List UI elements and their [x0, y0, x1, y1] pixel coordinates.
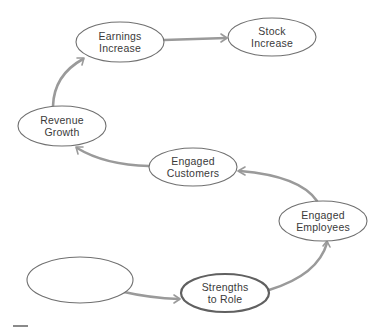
label-line: Increase [251, 37, 293, 49]
edge-employees-to-customers [238, 167, 317, 201]
label-line: Customers [167, 167, 220, 179]
label-line: to Role [202, 293, 249, 305]
label-revenue-growth: Revenue Growth [40, 114, 83, 138]
label-line: Revenue [40, 114, 83, 126]
label-stock-increase: Stock Increase [251, 25, 293, 49]
label-earnings-increase: Earnings Increase [98, 30, 141, 54]
edge-customers-to-revenue [76, 147, 149, 166]
dash-mark [13, 325, 28, 327]
label-line: Growth [40, 126, 83, 138]
edge-revenue-to-earnings [53, 58, 84, 106]
label-engaged-customers: Engaged Customers [167, 155, 220, 179]
label-line: Engaged [296, 209, 350, 221]
label-engaged-employees: Engaged Employees [296, 209, 350, 233]
label-line: Earnings [98, 30, 141, 42]
label-strengths-to-role: Strengths to Role [202, 281, 249, 305]
edge-strengths-to-employees [269, 241, 330, 290]
node-blank[interactable] [27, 257, 133, 303]
edge-earnings-to-stock [164, 34, 227, 42]
label-line: Employees [296, 221, 350, 233]
label-line: Stock [251, 25, 293, 37]
label-line: Strengths [202, 281, 249, 293]
edge-blank-to-strengths [124, 292, 180, 303]
label-line: Increase [98, 42, 141, 54]
label-line: Engaged [167, 155, 220, 167]
